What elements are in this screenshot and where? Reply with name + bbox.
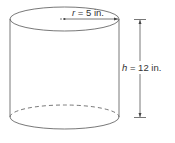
height-arrowhead-top bbox=[139, 20, 142, 24]
cylinder-diagram: r = 5 in. h = 12 in. bbox=[0, 0, 175, 143]
center-point bbox=[64, 18, 66, 20]
cylinder-bottom-front-arc bbox=[10, 117, 119, 129]
radius-label: r = 5 in. bbox=[72, 7, 104, 18]
height-label: h = 12 in. bbox=[122, 62, 161, 73]
height-arrowhead-bottom bbox=[139, 113, 142, 117]
radius-value: = 5 in. bbox=[75, 7, 104, 18]
height-value: = 12 in. bbox=[127, 62, 161, 73]
radius-arrowhead bbox=[114, 18, 118, 21]
cylinder-bottom-back-arc bbox=[10, 105, 119, 117]
